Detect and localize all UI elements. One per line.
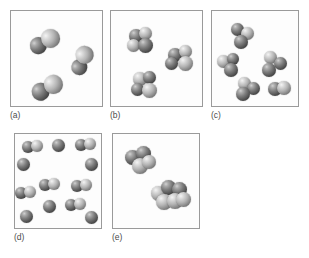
panel-e-molecule-2-cluster	[151, 180, 191, 212]
panel-d-molecule-4-atom	[17, 158, 31, 172]
atom-sphere	[85, 211, 98, 224]
panel-b-molecule-1-polyatomic	[127, 27, 155, 55]
panel-e-molecule-1-cluster	[125, 146, 157, 176]
panel-a-label: (a)	[10, 110, 20, 120]
panel-d-molecule-12-atom	[85, 211, 99, 225]
panel-d-molecule-5-atom	[85, 158, 99, 172]
panel-e: (e)	[112, 133, 200, 244]
panel-b-molecule-2-polyatomic	[165, 45, 195, 72]
atom-sphere	[74, 198, 86, 210]
atom-sphere	[142, 83, 157, 98]
atom-sphere	[52, 139, 65, 152]
panel-b-label: (b)	[110, 110, 120, 120]
panel-c-box	[211, 10, 299, 107]
atom-sphere	[43, 200, 56, 213]
panel-d-molecule-11-atom	[20, 210, 34, 224]
panel-c-molecule-5-diatomic	[268, 81, 292, 102]
panel-d-molecule-2-atom	[52, 139, 66, 153]
panel-a: (a)	[10, 10, 103, 122]
panel-d-molecule-7-diatomic	[71, 179, 95, 194]
panel-a-molecule-2-diatomic	[64, 43, 101, 79]
atom-sphere	[236, 87, 250, 101]
atom-sphere	[178, 56, 193, 71]
atom-sphere	[224, 63, 238, 77]
atom-sphere	[17, 158, 30, 171]
panel-a-box	[10, 10, 103, 107]
panel-c-molecule-3-triatomic	[262, 51, 288, 78]
panel-b-molecule-3-polyatomic	[131, 71, 159, 99]
atom-sphere	[274, 57, 287, 70]
cut-off-header-text	[0, 0, 309, 1]
panel-d-box	[14, 133, 102, 229]
panel-a-molecule-1-diatomic	[26, 25, 66, 58]
panel-c-molecule-1-triatomic	[230, 23, 256, 49]
atom-sphere	[262, 63, 276, 77]
panel-b: (b)	[110, 10, 203, 122]
atom-sphere	[24, 186, 36, 198]
panel-c-label: (c)	[211, 110, 221, 120]
atom-sphere	[48, 178, 60, 190]
atom-sphere	[277, 81, 291, 95]
atom-sphere	[234, 35, 248, 49]
panel-b-box	[110, 10, 203, 107]
panel-c-molecule-2-triatomic	[217, 53, 242, 77]
panel-a-molecule-3-diatomic	[28, 72, 68, 105]
molecular-representation-figure: (a)(b)(c)(d)(e)	[0, 0, 309, 258]
atom-sphere	[20, 210, 33, 223]
panel-e-label: (e)	[112, 232, 122, 242]
atom-sphere	[31, 140, 43, 152]
panel-e-box	[112, 133, 200, 229]
panel-d-molecule-6-diatomic	[39, 178, 63, 193]
panel-c-molecule-4-triatomic	[236, 77, 262, 102]
panel-d: (d)	[14, 133, 102, 244]
atom-sphere	[138, 38, 153, 53]
atom-sphere	[80, 179, 92, 191]
atom-sphere	[176, 192, 191, 207]
panel-d-label: (d)	[14, 232, 24, 242]
atom-sphere	[85, 158, 98, 171]
panel-d-molecule-9-atom	[43, 200, 57, 214]
atom-sphere	[142, 155, 156, 169]
atom-sphere	[165, 57, 178, 70]
atom-sphere	[84, 138, 96, 150]
panel-d-molecule-3-diatomic	[75, 138, 99, 153]
panel-d-molecule-8-diatomic	[15, 186, 39, 201]
panel-d-molecule-1-diatomic	[22, 140, 46, 155]
panel-c: (c)	[211, 10, 299, 122]
